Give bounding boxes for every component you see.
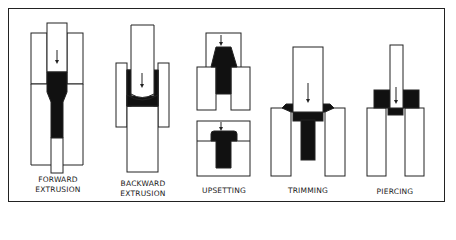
die-right bbox=[325, 108, 345, 176]
backward-extrusion-panel bbox=[116, 25, 169, 172]
extrudate-exit bbox=[51, 138, 63, 173]
label-line-2: EXTRUSION bbox=[114, 189, 172, 199]
slug bbox=[388, 108, 403, 115]
trimming-panel bbox=[271, 47, 345, 176]
label-backward-extrusion: BACKWARD EXTRUSION bbox=[114, 179, 172, 199]
forward-extrusion-panel bbox=[31, 23, 83, 173]
workpiece-stem bbox=[301, 120, 315, 160]
die-bottom bbox=[127, 106, 158, 172]
lower-die-left bbox=[197, 67, 216, 110]
lower-die-right bbox=[231, 67, 250, 110]
label-piercing: PIERCING bbox=[366, 187, 424, 197]
die-left bbox=[271, 108, 291, 176]
punch bbox=[293, 47, 323, 112]
label-trimming: TRIMMING bbox=[279, 186, 337, 196]
container-left bbox=[116, 63, 127, 127]
workpiece-left bbox=[374, 90, 390, 108]
piercing-panel bbox=[367, 45, 424, 176]
upsetting-top-panel bbox=[197, 33, 250, 110]
label-line-1: UPSETTING bbox=[195, 186, 253, 196]
punch bbox=[131, 25, 154, 98]
upsetting-bottom-panel bbox=[197, 121, 250, 176]
label-line-1: TRIMMING bbox=[279, 186, 337, 196]
die-right bbox=[405, 108, 424, 176]
label-line-2: EXTRUSION bbox=[30, 185, 86, 195]
die-right-upper bbox=[67, 33, 83, 84]
label-forward-extrusion: FORWARD EXTRUSION bbox=[30, 175, 86, 195]
label-line-1: BACKWARD bbox=[114, 179, 172, 189]
label-line-1: FORWARD bbox=[30, 175, 86, 185]
label-line-1: PIERCING bbox=[366, 187, 424, 197]
die-left bbox=[367, 108, 386, 176]
workpiece-right bbox=[403, 90, 419, 108]
label-upsetting: UPSETTING bbox=[195, 186, 253, 196]
die-left-upper bbox=[31, 33, 47, 84]
container-right bbox=[158, 63, 169, 127]
punch bbox=[47, 23, 67, 72]
